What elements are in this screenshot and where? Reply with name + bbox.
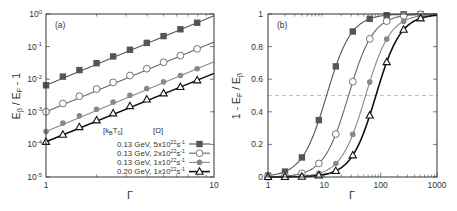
dot-marker [401, 18, 407, 24]
dot-marker [77, 113, 83, 119]
circle-marker [143, 65, 150, 72]
circle-marker [194, 46, 201, 53]
dot-marker [110, 99, 116, 105]
square-marker [93, 60, 99, 66]
square-marker [350, 28, 356, 34]
triangle-marker [143, 96, 150, 102]
square-marker [110, 53, 116, 59]
y-tick-label: 0.8 [251, 42, 263, 52]
y-tick-label: 10-5 [27, 172, 42, 182]
y-tick-label: 0.4 [251, 107, 263, 117]
dot-marker [94, 106, 100, 112]
circle-marker [349, 78, 356, 85]
dot-marker [384, 36, 390, 42]
y-tick-label: 10-4 [27, 139, 42, 149]
circle-marker [366, 35, 373, 42]
y-tick-label: 1 [258, 9, 263, 19]
y-tick-label: 100 [29, 9, 42, 19]
y-axis-label: Eβ / EF - 1 [10, 73, 24, 119]
square-marker [144, 40, 150, 46]
panel-a-chart: 10010-110-210-310-410-5110(a)ΓEβ / EF - … [10, 9, 219, 201]
square-marker [194, 20, 200, 26]
legend-entry: 0.20 GeV, 1x1022s-1 [117, 166, 185, 176]
circle-marker [196, 150, 203, 157]
y-tick-label: 10-3 [27, 106, 42, 116]
x-tick-label: 10 [209, 180, 219, 190]
dot-marker [350, 132, 356, 138]
x-tick-label: 1 [266, 180, 271, 190]
square-marker [76, 67, 82, 73]
series-open-triangle [42, 73, 214, 144]
square-marker [299, 154, 305, 160]
y-tick-label: 0 [258, 172, 263, 182]
x-axis-label: Γ [127, 189, 133, 201]
x-tick-label: 100 [374, 180, 388, 190]
circle-marker [127, 72, 134, 79]
y-tick-label: 10-2 [27, 74, 42, 84]
dot-marker [144, 86, 150, 92]
circle-marker [332, 131, 339, 138]
circle-marker [110, 79, 117, 86]
dot-marker [178, 73, 184, 79]
figure: 10010-110-210-310-410-5110(a)ΓEβ / EF - … [0, 0, 457, 211]
circle-marker [383, 18, 390, 25]
dot-marker [60, 120, 66, 126]
x-tick-label: 1 [44, 180, 49, 190]
y-tick-label: 10-1 [27, 41, 42, 51]
x-tick-label: 10 [320, 180, 330, 190]
square-marker [127, 47, 133, 53]
circle-marker [93, 86, 100, 93]
y-tick-label: 0.6 [251, 74, 263, 84]
circle-marker [59, 100, 66, 107]
square-marker [60, 73, 66, 79]
dot-marker [333, 161, 339, 167]
x-axis-label: Γ [349, 189, 355, 201]
y-tick-label: 0.2 [251, 139, 263, 149]
panel-label: (b) [277, 20, 288, 30]
y-axis-label: 1 - EF / Eβ [230, 73, 244, 119]
triangle-marker [383, 58, 390, 64]
dot-marker [367, 79, 373, 85]
panel-b-chart: 00.20.40.60.811101001000(b)Γ1 - EF / Eβ [230, 9, 447, 201]
circle-marker [315, 160, 322, 167]
circle-marker [177, 52, 184, 59]
legend: [kBT0][Ω]0.13 GeV, 5x1022s-10.13 GeV, 2x… [103, 126, 210, 176]
series-open-triangle [264, 14, 437, 179]
dot-marker [194, 66, 200, 72]
square-marker [177, 26, 183, 32]
legend-header-kbt: [kBT0] [103, 126, 123, 136]
triangle-marker [366, 112, 373, 118]
triangle-marker [126, 102, 133, 108]
square-marker [316, 117, 322, 123]
dot-marker [161, 79, 167, 85]
square-marker [196, 141, 202, 147]
dot-marker [127, 93, 133, 99]
legend-header-omega: [Ω] [153, 126, 163, 135]
circle-marker [76, 93, 83, 100]
circle-marker [160, 59, 167, 66]
series-filled-square [265, 11, 437, 179]
dot-marker [197, 160, 203, 166]
square-marker [160, 33, 166, 39]
circle-marker [400, 12, 407, 19]
square-marker [367, 16, 373, 22]
x-tick-label: 1000 [428, 180, 447, 190]
square-marker [333, 63, 339, 69]
panel-label: (a) [55, 20, 66, 30]
